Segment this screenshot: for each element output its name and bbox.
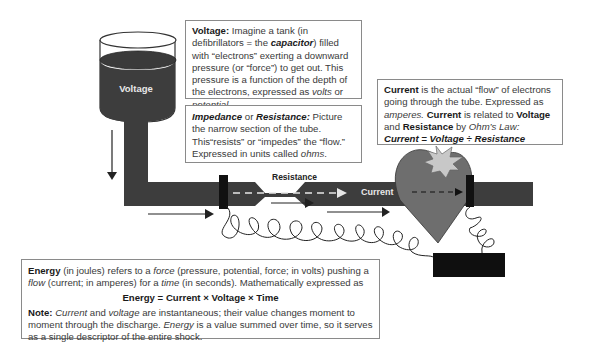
current-text: by: [453, 121, 468, 132]
impedance-text: .: [324, 148, 327, 159]
energy-text: (current; in amperes) for a: [45, 277, 161, 288]
current-term: Current: [55, 307, 87, 318]
voltage-text: or: [332, 86, 343, 97]
energy-text: (in joules) refers to a: [61, 265, 154, 276]
capacitor-term: capacitor: [271, 37, 314, 48]
voltage-tank: Voltage: [100, 32, 176, 122]
current-label: Current: [361, 187, 394, 197]
current-term: Current: [424, 109, 461, 120]
voltage-description-box: Voltage: Imagine a tank (in defibrillato…: [185, 20, 362, 99]
ohms-law-formula: Current = Voltage ÷ Resistance: [384, 133, 525, 144]
amperes-term: amperes.: [384, 109, 424, 120]
defibrillator-box: [433, 253, 505, 277]
energy-text: (in seconds). Mathematically expressed a…: [179, 277, 363, 288]
voltage-title: Voltage:: [192, 25, 229, 36]
energy-title: Energy: [28, 265, 61, 276]
resistance-term: Resistance:: [256, 111, 310, 122]
volts-term: volts: [312, 86, 332, 97]
impedance-term: Impedance: [192, 111, 242, 122]
energy-text: (pressure, potential, force; in volts) p…: [175, 265, 369, 276]
force-term: force: [153, 265, 174, 276]
current-title: Current: [384, 84, 419, 95]
ohms-law-term: Ohm’s Law:: [469, 121, 519, 132]
energy-description-box: Energy (in joules) refers to a force (pr…: [21, 259, 380, 339]
flow-term: flow: [28, 277, 45, 288]
current-text: and: [384, 121, 403, 132]
note-label: Note:: [28, 307, 53, 318]
voltage-term: Voltage: [516, 109, 550, 120]
coiled-wire-right: [466, 207, 494, 258]
energy-formula: Energy = Current × Voltage × Time: [28, 292, 373, 304]
electrode-right: [466, 175, 474, 207]
tank-label: Voltage: [119, 83, 153, 94]
energy-term: Energy: [163, 319, 193, 330]
down-arrow-icon: [107, 130, 117, 180]
resistance-term: Resistance: [403, 121, 454, 132]
time-term: time: [161, 277, 179, 288]
voltage-term: voltage: [109, 307, 140, 318]
energy-definition: Energy (in joules) refers to a force (pr…: [28, 265, 373, 290]
energy-note: Note: Current and voltage are instantane…: [28, 307, 373, 344]
coiled-wire-left: [222, 206, 434, 258]
impedance-text: or: [242, 111, 256, 122]
ohms-term: ohms: [301, 148, 324, 159]
current-description-box: Current is the actual “flow” of electron…: [377, 79, 563, 145]
impedance-description-box: Impedance or Resistance: Picture the nar…: [185, 105, 362, 163]
resistance-label: Resistance: [272, 172, 317, 182]
electrode-left: [219, 175, 228, 209]
note-text: and: [87, 307, 108, 318]
current-text: is related to: [461, 109, 516, 120]
